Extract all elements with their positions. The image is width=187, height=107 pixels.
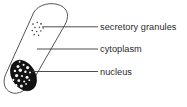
label-nucleus: nucleus <box>100 67 132 77</box>
granule-dot <box>34 27 36 29</box>
granule-dot <box>32 30 34 32</box>
granule-dot <box>40 30 41 31</box>
labels-group: secretory granules cytoplasm nucleus <box>100 22 177 77</box>
granule-dot <box>38 35 39 36</box>
granule-dot <box>33 34 35 36</box>
granule-dot <box>40 23 42 25</box>
granule-dot <box>36 31 38 33</box>
granule-dot <box>39 27 40 28</box>
diagram-canvas: secretory granules cytoplasm nucleus <box>0 0 187 107</box>
granule-dot <box>32 23 34 25</box>
label-cytoplasm: cytoplasm <box>100 44 142 54</box>
granule-dot <box>42 27 44 29</box>
label-secretory-granules: secretory granules <box>100 22 177 32</box>
cell-diagram-figure: secretory granules cytoplasm nucleus <box>0 0 187 107</box>
granule-dot <box>36 22 38 24</box>
